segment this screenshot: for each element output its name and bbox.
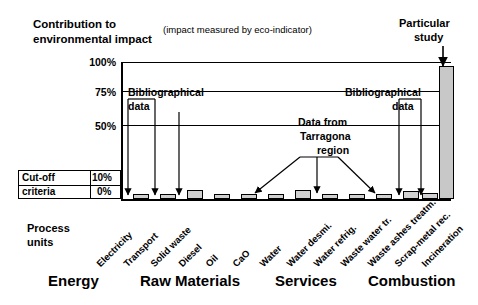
chart-title-line1: Contribution to (33, 18, 116, 30)
bar-water (295, 190, 311, 199)
particular-study-label-line2: study (414, 31, 443, 43)
cut-off-value-low: 0% (97, 186, 111, 197)
y-tick-50: 50% (72, 120, 116, 132)
bar-oil (241, 194, 257, 199)
group-label-energy: Energy (48, 272, 99, 289)
bar-waste-water-tr (376, 194, 392, 199)
annotation-bibliographical-left-line1: Bibliographical (128, 86, 204, 98)
bar-water-refrig (349, 194, 365, 199)
group-label-raw-materials: Raw Materials (140, 272, 240, 289)
annotation-tarragona-line1: Data from (298, 116, 347, 128)
figure-root: Contribution to environmental impact (im… (0, 0, 478, 305)
x-label-water: Water (257, 243, 283, 269)
x-label-cao: CaO (230, 247, 252, 269)
gridline-100 (123, 62, 451, 63)
chart-subtitle: (impact measured by eco-indicator) (163, 24, 312, 35)
cut-off-label-line1: Cut-off (22, 172, 55, 183)
bar-incineration (439, 66, 454, 199)
annotation-tarragona-line3: region (317, 144, 349, 156)
cut-off-value-high: 10% (92, 172, 112, 183)
bar-cao (268, 194, 284, 199)
bar-electricity (133, 194, 149, 199)
x-label-diesel: Diesel (176, 241, 204, 269)
annotation-tarragona-line2: Tarragona (300, 130, 351, 142)
plot-area (121, 62, 451, 201)
cut-off-label-line2: criteria (22, 186, 55, 197)
gridline-50 (123, 125, 451, 126)
group-label-combustion: Combustion (368, 272, 456, 289)
process-units-label-line2: units (27, 236, 53, 248)
bar-transport (160, 194, 176, 199)
bar-water-desmi (322, 194, 338, 199)
particular-study-label-line1: Particular (399, 17, 450, 29)
x-label-oil: Oil (203, 252, 220, 269)
group-label-services: Services (275, 272, 337, 289)
bar-diesel (214, 194, 230, 199)
chart-title-line2: environmental impact (33, 33, 152, 45)
annotation-bibliographical-right-line1: Bibliographical (345, 86, 421, 98)
annotation-bibliographical-right-line2: data (392, 100, 414, 112)
y-tick-75: 75% (72, 86, 116, 98)
process-units-label-line1: Process (27, 222, 70, 234)
bar-waste-ashes-treatm (403, 191, 419, 199)
y-tick-100: 100% (72, 56, 116, 68)
annotation-bibliographical-left-line2: data (128, 100, 150, 112)
bar-solid-waste (187, 190, 203, 199)
